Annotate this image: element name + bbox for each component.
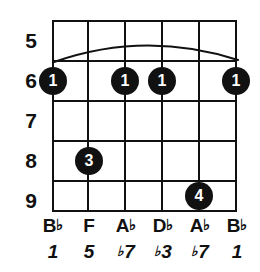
fret-line bbox=[52, 60, 237, 62]
fret-number: 7 bbox=[3, 110, 37, 131]
interval-degree: 1 bbox=[48, 241, 59, 262]
fret-line bbox=[52, 140, 237, 142]
note-letter: A bbox=[116, 215, 130, 236]
flat-icon: ♭ bbox=[203, 216, 210, 233]
finger-dot[interactable]: 4 bbox=[185, 182, 213, 210]
finger-dot[interactable]: 1 bbox=[111, 67, 139, 95]
interval-row: 1 5 ♭7 ♭3 ♭7 1 bbox=[0, 238, 260, 264]
string-line bbox=[52, 20, 54, 212]
fret-number: 9 bbox=[3, 190, 37, 211]
string-line bbox=[161, 20, 163, 212]
flat-icon: ♭ bbox=[56, 216, 63, 233]
note-letter: D bbox=[153, 215, 167, 236]
fret-number: 6 bbox=[3, 70, 37, 91]
finger-dot[interactable]: 3 bbox=[75, 147, 103, 175]
note-letter: B bbox=[227, 215, 241, 236]
interval-degree: 7 bbox=[124, 241, 135, 262]
fret-line bbox=[52, 180, 237, 182]
fret-line bbox=[52, 100, 237, 102]
note-name: B♭ bbox=[214, 212, 260, 239]
interval-label: 1 bbox=[214, 238, 260, 265]
finger-dot[interactable]: 1 bbox=[222, 67, 250, 95]
interval-degree: 1 bbox=[232, 241, 243, 262]
fret-number-column: 5 6 7 8 9 bbox=[0, 20, 44, 212]
interval-degree: 3 bbox=[161, 241, 172, 262]
string-line bbox=[87, 20, 89, 212]
fret-line bbox=[52, 20, 237, 22]
fret-number: 5 bbox=[3, 30, 37, 51]
chord-diagram: 5 6 7 8 9 1 1 1 1 3 4 B♭ F A♭ D♭ A♭ B♭ bbox=[0, 0, 260, 272]
string-line bbox=[124, 20, 126, 212]
flat-icon: ♭ bbox=[240, 216, 247, 233]
finger-dot[interactable]: 1 bbox=[39, 67, 67, 95]
fret-number: 8 bbox=[3, 150, 37, 171]
note-letter: A bbox=[190, 215, 204, 236]
note-letter: F bbox=[83, 215, 95, 236]
finger-dot[interactable]: 1 bbox=[148, 67, 176, 95]
note-letter: B bbox=[43, 215, 57, 236]
fretboard-grid bbox=[52, 20, 237, 212]
note-name-row: B♭ F A♭ D♭ A♭ B♭ bbox=[0, 212, 260, 238]
interval-degree: 7 bbox=[198, 241, 209, 262]
flat-icon: ♭ bbox=[166, 216, 173, 233]
string-line bbox=[235, 20, 237, 212]
flat-icon: ♭ bbox=[129, 216, 136, 233]
interval-degree: 5 bbox=[84, 241, 95, 262]
